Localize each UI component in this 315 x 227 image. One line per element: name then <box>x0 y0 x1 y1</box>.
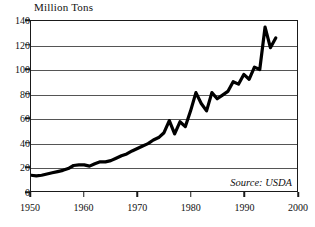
x-axis-tick-mark <box>83 192 85 197</box>
x-axis-tick-label: 1960 <box>74 202 94 213</box>
x-axis-tick-mark <box>297 192 299 197</box>
x-axis-tick-label: 1980 <box>181 202 201 213</box>
x-axis-tick-label: 1990 <box>234 202 254 213</box>
plot-area: Source: USDA <box>30 20 298 192</box>
chart-title: Million Tons <box>34 1 93 13</box>
x-axis-tick-label: 1950 <box>20 202 40 213</box>
x-axis-tick-mark <box>244 192 246 197</box>
data-series-line <box>31 21 297 191</box>
x-axis-tick-mark <box>136 192 138 197</box>
x-axis-tick-mark <box>29 192 31 197</box>
chart-container: Million Tons 020406080100120140 19501960… <box>0 0 315 227</box>
x-axis-tick-label: 1970 <box>127 202 147 213</box>
source-annotation: Source: USDA <box>230 177 292 188</box>
x-axis: 195019601970198019902000 <box>0 192 315 227</box>
x-axis-tick-label: 2000 <box>288 202 308 213</box>
x-axis-tick-mark <box>190 192 192 197</box>
